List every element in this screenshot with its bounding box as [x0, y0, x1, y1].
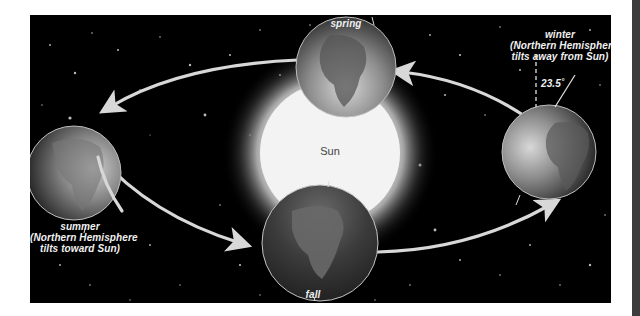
seasons-diagram: Sun spring summer (Northern Hemisphere t…	[30, 15, 611, 303]
tilt-angle-label: 23.5˚	[541, 78, 571, 89]
season-note-line1: (Northern Hemisphere	[30, 232, 130, 243]
winter-label: winter (Northern Hemisphere tilts away f…	[510, 29, 610, 62]
fall-label: fall	[298, 289, 328, 300]
earth-summer	[30, 126, 122, 233]
season-name: winter	[510, 29, 610, 40]
earth-spring	[296, 17, 396, 117]
season-note-line1: (Northern Hemisphere	[510, 40, 610, 51]
side-strip	[632, 0, 640, 316]
spring-label: spring	[326, 18, 366, 29]
season-name: fall	[306, 289, 321, 300]
season-note-line2: tilts away from Sun)	[510, 51, 610, 62]
sun-label: Sun	[315, 145, 345, 157]
season-name: spring	[330, 18, 361, 29]
season-name: summer	[30, 221, 130, 232]
summer-label: summer (Northern Hemisphere tilts toward…	[30, 221, 130, 254]
season-note-line2: tilts toward Sun)	[30, 243, 130, 254]
